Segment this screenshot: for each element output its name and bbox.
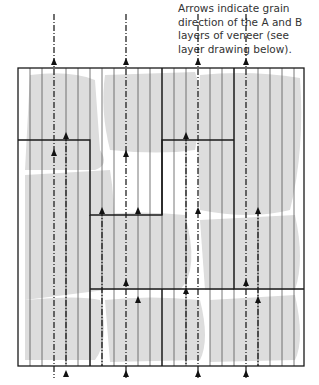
arrow-up-icon bbox=[195, 370, 201, 377]
arrow-up-icon bbox=[63, 370, 69, 377]
arrow-up-icon bbox=[243, 370, 249, 377]
veneer-layout-diagram bbox=[0, 0, 319, 385]
arrow-up-icon bbox=[243, 58, 249, 65]
arrow-up-icon bbox=[123, 370, 129, 377]
arrow-up-icon bbox=[123, 58, 129, 65]
arrow-up-icon bbox=[51, 58, 57, 65]
arrow-up-icon bbox=[135, 207, 141, 214]
arrow-up-icon bbox=[195, 58, 201, 65]
arrow-up-icon bbox=[183, 287, 189, 294]
